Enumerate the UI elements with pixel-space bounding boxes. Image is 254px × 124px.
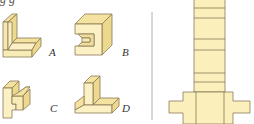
option-label-d: D <box>122 103 130 114</box>
net-diagram <box>169 0 250 124</box>
option-label-c: C <box>50 103 57 114</box>
solid-c <box>3 81 30 118</box>
option-label-a: A <box>49 47 56 58</box>
net-strip <box>194 0 225 92</box>
net-base <box>169 92 250 124</box>
solid-d <box>75 76 119 113</box>
option-label-b: B <box>122 47 129 58</box>
solid-a <box>3 14 41 57</box>
solid-b <box>75 14 112 55</box>
